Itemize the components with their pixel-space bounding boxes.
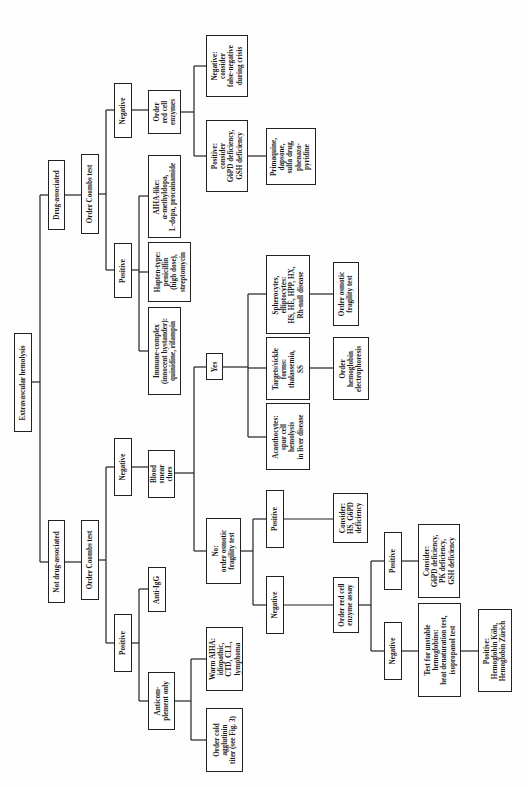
node-label: Order Coombs test — [86, 165, 94, 224]
node-no-osm: No: order osmotic fragility test — [206, 518, 241, 584]
node-label: Order red cell enzymes — [152, 99, 177, 125]
node-neg-osm: Negative — [266, 576, 284, 634]
node-cold: Order cold agglutinin titer (see Fig. 3) — [206, 708, 243, 772]
node-warm: Warm AIHA: idiopathic, CTD, CLL, lymphom… — [206, 627, 243, 691]
node-label: Positive — [389, 549, 397, 573]
node-unstable-hb: Test for unstable hemoglobins: heat dena… — [418, 603, 461, 697]
node-neg-notdrug: Negative — [114, 438, 132, 496]
node-yes: Yes — [206, 353, 223, 380]
node-label: Order cold agglutinin titer (see Fig. 3) — [212, 716, 237, 764]
node-label: Anticom- plement only — [153, 681, 169, 721]
node-label: Positive: Hemoglobin Köln, Hemoglobin Zü… — [483, 620, 508, 681]
node-anticomp: Anticom- plement only — [148, 672, 175, 730]
node-label: Immune-complex (innocent bystander): qui… — [152, 318, 177, 384]
node-immune: Immune-complex (innocent bystander): qui… — [148, 307, 181, 395]
node-hb-koln: Positive: Hemoglobin Köln, Hemoglobin Zü… — [478, 609, 512, 692]
node-label: Positive — [271, 507, 279, 531]
node-label: Negative — [119, 97, 127, 124]
node-enz-assay: Order red cell enzyme assay — [333, 577, 359, 633]
node-label: Positive — [119, 259, 127, 283]
node-label: Positive — [119, 631, 127, 655]
node-acantho: Acanthocytes: spur cell hemolysis in liv… — [266, 403, 310, 470]
node-label: Primaquine, dapsone, sulfa drug, phenazo… — [270, 137, 311, 175]
node-smear: Blood smear clues — [148, 450, 175, 498]
node-label: Negative — [389, 638, 397, 665]
node-falseneg: Negative: consider false-negative during… — [206, 35, 248, 97]
node-osm-frag-yes: Order osmotic fragility test — [333, 262, 359, 326]
node-label: Hapten-type: penicillin (high dose), str… — [153, 252, 186, 293]
node-g6pd-pos: Positive: consider G6PD deficiency, GSH … — [206, 120, 248, 192]
node-notdrug: Not drug-associated — [48, 520, 65, 603]
node-target: Targets/sickle forms: thalassemia, SS — [266, 337, 310, 400]
node-hapten: Hapten-type: penicillin (high dose), str… — [148, 242, 191, 302]
node-g6pd-pk-gsh: Consider: G6PD deficiency, PK deficiency… — [418, 524, 460, 598]
node-label: Drug-associated — [52, 170, 60, 220]
node-hb-electro: Order hemoglobin electrophoresis — [333, 337, 369, 400]
node-label: Negative: consider false-negative during… — [211, 45, 244, 87]
flowchart-canvas: Extravascular hemolysisDrug-associatedNo… — [0, 0, 528, 787]
node-label: Positive: consider G6PD deficiency, GSH … — [211, 130, 244, 183]
node-label: Yes — [210, 361, 218, 371]
node-label: Order Coombs test — [86, 531, 94, 590]
node-label: Spherocytes, elliptocytes: HS, HE, HPP, … — [272, 266, 305, 323]
node-label: Consider: G6PD deficiency, PK deficiency… — [423, 535, 456, 588]
node-pos-enz: Positive — [384, 532, 402, 590]
node-rbc-enz: Order red cell enzymes — [148, 90, 181, 134]
node-sphero: Spherocytes, elliptocytes: HS, HE, HPP, … — [266, 255, 310, 334]
node-label: Blood smear clues — [149, 465, 174, 484]
node-aiha-like: AIHA-like: α-methyldopa, L-dopa, procain… — [148, 155, 181, 238]
node-pos-osm: Positive — [266, 490, 284, 548]
node-pos-notdrug: Positive — [114, 614, 132, 672]
node-label: Warm AIHA: idiopathic, CTD, CLL, lymphom… — [208, 638, 241, 680]
node-root: Extravascular hemolysis — [14, 333, 32, 432]
node-pos-drug: Positive — [114, 243, 132, 298]
node-label: Consider: HS, G6PD deficiency — [338, 502, 363, 534]
node-hs-g6pd: Consider: HS, G6PD deficiency — [333, 493, 368, 543]
node-label: Order red cell enzyme assay — [338, 583, 354, 626]
node-label: Anti-IgG — [153, 576, 161, 604]
node-drug: Drug-associated — [48, 160, 65, 230]
node-label: Not drug-associated — [52, 531, 60, 592]
node-label: Order osmotic fragility test — [338, 272, 354, 316]
node-label: Acanthocytes: spur cell hemolysis in liv… — [272, 414, 305, 459]
node-label: Negative — [271, 592, 279, 619]
node-coombs-drug: Order Coombs test — [81, 154, 99, 234]
node-coombs-notdrug: Order Coombs test — [81, 520, 99, 600]
node-label: No: order osmotic fragility test — [211, 530, 236, 572]
node-primaquine: Primaquine, dapsone, sulfa drug, phenazo… — [266, 128, 316, 185]
node-label: AIHA-like: α-methyldopa, L-dopa, procain… — [152, 162, 177, 230]
node-neg-drug: Negative — [114, 83, 132, 138]
node-label: Order hemoglobin electrophoresis — [339, 345, 364, 391]
node-neg-enz: Negative — [384, 622, 402, 680]
node-label: Extravascular hemolysis — [19, 345, 27, 420]
node-antiigg: Anti-IgG — [148, 567, 166, 612]
node-label: Test for unstable hemoglobins: heat dena… — [423, 615, 456, 684]
node-label: Targets/sickle forms: thalassemia, SS — [272, 347, 305, 389]
node-label: Negative — [119, 454, 127, 481]
